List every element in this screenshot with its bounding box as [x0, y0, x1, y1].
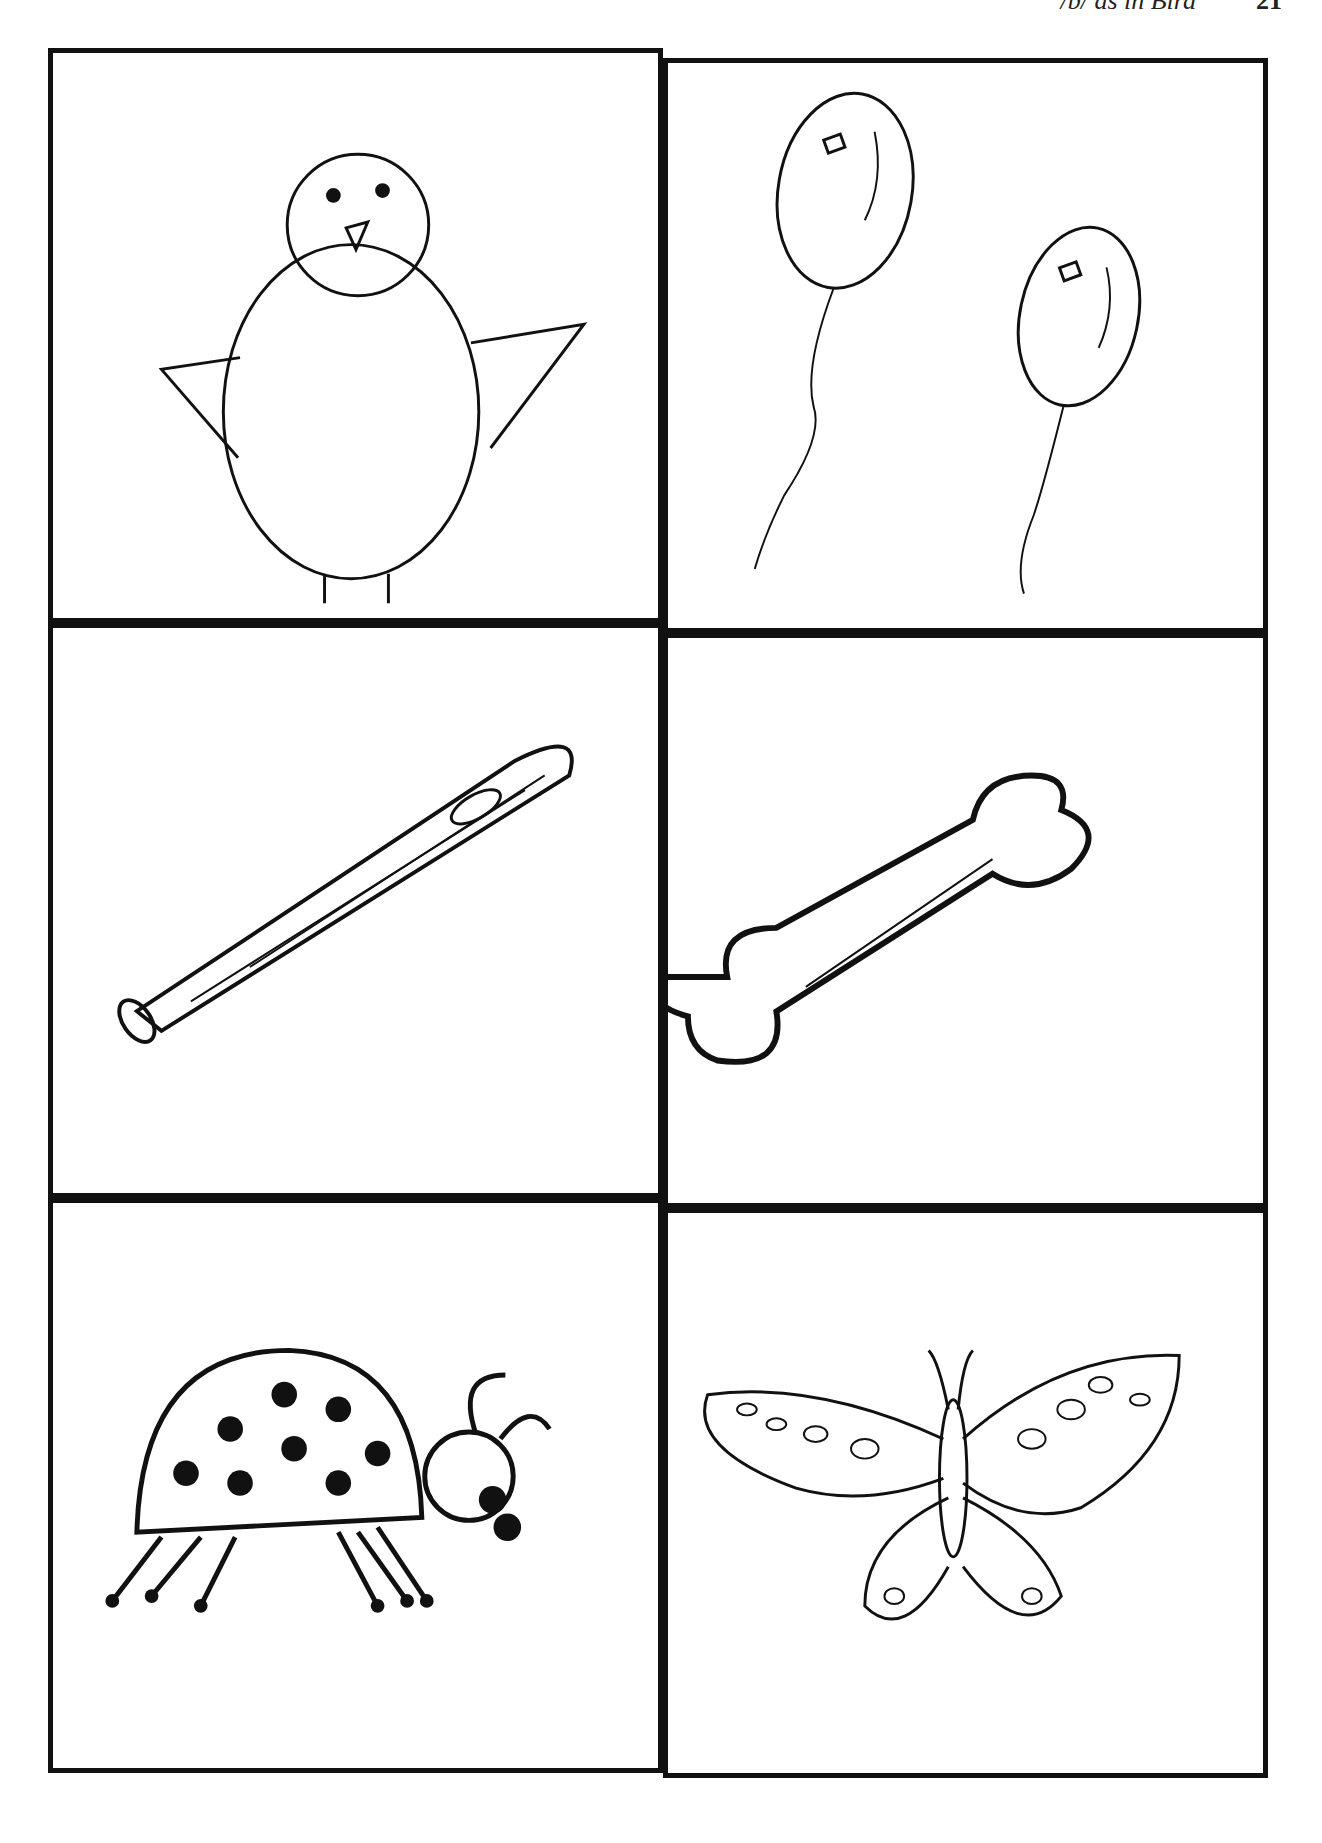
butterfly-icon: [668, 1213, 1263, 1773]
page-number: 21: [1256, 0, 1282, 16]
card-bone: [663, 633, 1268, 1208]
card-bird: [48, 48, 663, 623]
card-bug: [48, 1198, 663, 1773]
card-balloons: [663, 58, 1268, 633]
balloons-icon: [668, 63, 1263, 628]
card-bat: [48, 623, 663, 1198]
bug-icon: [53, 1203, 658, 1768]
card-butterfly: [663, 1208, 1268, 1778]
bone-icon: [668, 638, 1263, 1203]
bird-icon: [53, 53, 658, 618]
header-title: /b/ as in Bird: [1060, 0, 1196, 16]
page-header: /b/ as in Bird 21: [1060, 0, 1282, 16]
bat-icon: [53, 628, 658, 1193]
